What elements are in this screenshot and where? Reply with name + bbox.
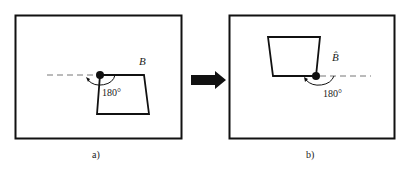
panel-b-caption: b) <box>306 150 314 160</box>
panel-a-pivot-dot <box>96 71 104 79</box>
transition-arrow-icon <box>191 71 226 89</box>
panel-b-label: B̂ <box>332 52 339 63</box>
panel-b-angle-arc <box>306 76 334 85</box>
panel-a-caption: a) <box>92 150 100 160</box>
panel-a-angle: 180° <box>102 88 121 98</box>
panel-a-label: B <box>139 56 146 67</box>
panel-b-angle: 180° <box>323 89 342 99</box>
panel-b-pivot-dot <box>312 72 320 80</box>
diagram-canvas <box>0 0 406 170</box>
panel-b-frame <box>230 16 395 139</box>
panel-b-trapezoid <box>268 37 320 76</box>
